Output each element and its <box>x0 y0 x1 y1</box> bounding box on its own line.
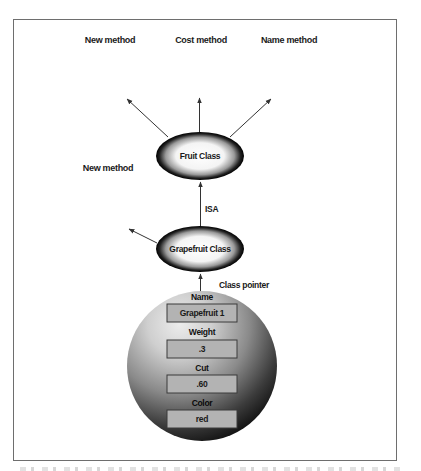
grapefruit-class-label: Grapefruit Class <box>169 244 231 254</box>
arrow-name-method <box>230 99 271 137</box>
label-name-method: Name method <box>261 35 317 45</box>
field-label-color: Color <box>192 398 214 408</box>
arrow-new-method <box>127 99 168 137</box>
cropped-caption-text <box>20 467 400 471</box>
fruit-class-method-arrows <box>127 98 271 137</box>
arrow-grapefruit-new-method <box>129 229 157 243</box>
top-method-labels: New method Cost method Name method <box>85 35 317 45</box>
field-label-name: Name <box>191 292 214 302</box>
grapefruit-instance-object: Name Grapefruit 1 Weight .3 Cut .60 Colo… <box>127 291 277 441</box>
class-hierarchy-diagram: New method Cost method Name method Fruit… <box>0 0 421 471</box>
isa-label: ISA <box>205 204 218 214</box>
grapefruit-class-node: Grapefruit Class <box>156 226 244 272</box>
field-value-name: Grapefruit 1 <box>180 308 225 318</box>
field-value-cut: .60 <box>197 379 208 389</box>
field-label-cut: Cut <box>195 363 209 373</box>
fruit-class-label: Fruit Class <box>180 151 221 161</box>
label-cost-method: Cost method <box>175 35 227 45</box>
field-label-weight: Weight <box>189 327 216 337</box>
field-value-color: red <box>196 414 208 424</box>
class-pointer-label: Class pointer <box>219 280 270 290</box>
field-value-weight: .3 <box>199 344 206 354</box>
fruit-class-node: Fruit Class <box>156 132 244 180</box>
label-new-method-side: New method <box>83 163 134 173</box>
label-new-method-top: New method <box>85 35 136 45</box>
